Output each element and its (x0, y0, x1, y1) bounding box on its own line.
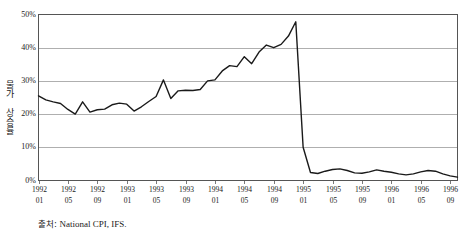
x-tick-label: 199601 (375, 185, 409, 206)
x-tick-month: 05 (228, 196, 262, 207)
x-tick-year: 1995 (287, 185, 321, 196)
source-note: 출처: National CPI, IFS. (38, 219, 127, 230)
x-tick-year: 1996 (375, 185, 409, 196)
x-tick-label: 199209 (81, 185, 115, 206)
x-tick-year: 1993 (140, 185, 174, 196)
x-tick-year: 1996 (434, 185, 468, 196)
x-axis-tick-labels: 1992011992051992091993011993051993091994… (0, 0, 474, 240)
x-tick-month: 05 (140, 196, 174, 207)
x-tick-label: 199405 (228, 185, 262, 206)
x-tick-label: 199305 (140, 185, 174, 206)
x-tick-month: 09 (434, 196, 468, 207)
x-tick-label: 199501 (287, 185, 321, 206)
chart-figure: 물가 상승률 0%10%20%30%40%50% 199201199205199… (0, 0, 474, 240)
x-tick-label: 199609 (434, 185, 468, 206)
x-tick-month: 09 (81, 196, 115, 207)
x-tick-year: 1992 (81, 185, 115, 196)
x-tick-month: 01 (375, 196, 409, 207)
x-tick-year: 1994 (228, 185, 262, 196)
x-tick-month: 01 (287, 196, 321, 207)
source-value: National CPI, IFS. (60, 219, 127, 229)
source-label: 출처 (38, 219, 54, 229)
